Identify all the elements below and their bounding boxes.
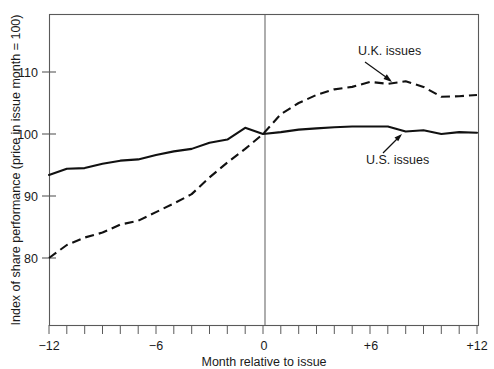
share-performance-line-chart: 110 100 90 80 Index of share performance… xyxy=(0,0,494,369)
x-tick-label-plus-6: +6 xyxy=(364,339,378,353)
chart-figure: 110 100 90 80 Index of share performance… xyxy=(0,0,494,369)
x-tick-label-zero: 0 xyxy=(261,339,268,353)
x-tick-label-minus-12: −12 xyxy=(38,339,59,353)
y-tick-label-90: 90 xyxy=(24,190,38,204)
x-axis-label: Month relative to issue xyxy=(201,355,326,369)
y-axis-label: Index of share performance (price in iss… xyxy=(9,15,23,326)
annotation-label-uk-issues: U.K. issues xyxy=(358,44,421,58)
x-tick-label-plus-12: +12 xyxy=(466,339,487,353)
annotation-label-us-issues: U.S. issues xyxy=(366,153,429,167)
y-tick-label-80: 80 xyxy=(24,252,38,266)
x-tick-label-minus-6: −6 xyxy=(149,339,163,353)
